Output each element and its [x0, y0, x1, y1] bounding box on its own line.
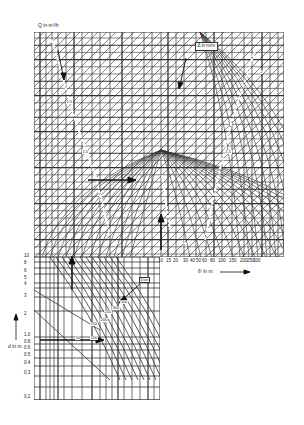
delta-box-label: Δ in m/m: [195, 42, 218, 51]
nomogram-chart: [0, 0, 304, 425]
box-symbol: Δ: [198, 43, 201, 48]
curve-label: 1: [182, 240, 185, 244]
curve-label: 100: [90, 336, 98, 340]
y-tick: 3: [24, 294, 27, 299]
y-tick: 0.2: [24, 395, 30, 400]
curve-label: 150: [90, 322, 98, 326]
durc-label: Durc: [139, 277, 150, 283]
y-tick: 1.0: [24, 333, 30, 338]
x-tick: 60: [202, 259, 207, 264]
y-tick: 0.8: [24, 340, 30, 345]
y-tick: 0.6: [24, 346, 30, 351]
x-tick: 80: [210, 259, 215, 264]
x-tick: 50: [196, 259, 201, 264]
y-axis-label: d in m: [8, 344, 22, 349]
curve-label: 2: [260, 70, 263, 74]
q-axis-label: Q in m³/h: [38, 23, 59, 28]
upper-grid: [0, 27, 304, 257]
x-tick: 15: [166, 259, 171, 264]
y-tick: 8: [24, 261, 27, 266]
curve-label: 1.5: [66, 100, 73, 104]
x-tick: 100: [218, 259, 226, 264]
x-tick: 20: [173, 259, 178, 264]
x-tick: 150: [229, 259, 237, 264]
curve-label: 200: [100, 318, 108, 322]
curve-label: 250: [104, 310, 112, 314]
y-tick: 0.3: [24, 371, 30, 376]
box-in: in: [202, 43, 206, 48]
y-tick: 2: [24, 312, 27, 317]
curve-label: 50: [75, 336, 80, 340]
curve-label: 300: [112, 306, 120, 310]
y-tick: 10: [24, 254, 29, 259]
y-tick: 6: [24, 269, 27, 274]
y-tick: 0.4: [24, 361, 30, 366]
x-axis-label: δ' in m: [198, 269, 213, 274]
y-tick: 4: [24, 282, 27, 287]
x-tick: 40: [190, 259, 195, 264]
y-tick: 5: [24, 276, 27, 281]
curve-label: 1.5: [82, 150, 89, 154]
curve-label: 1.5: [225, 150, 232, 154]
x-tick: 10: [158, 259, 163, 264]
y-tick: 0.5: [24, 353, 30, 358]
lower-grid: [34, 257, 186, 400]
x-tick: 30: [183, 259, 188, 264]
x-tick: 300: [253, 259, 261, 264]
curve-label: 500: [120, 300, 128, 304]
box-unit: m/m: [206, 43, 215, 48]
